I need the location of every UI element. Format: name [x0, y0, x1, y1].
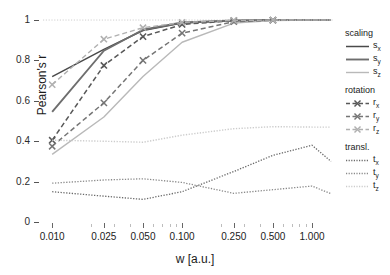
x-tick-mark: [143, 223, 144, 228]
marker-r_x: [101, 62, 107, 68]
legend-swatch-s_x: [345, 41, 370, 52]
legend-item-s_y[interactable]: sy: [345, 54, 390, 65]
legend-item-t_y[interactable]: ty: [345, 168, 390, 179]
legend-swatch-r_y: [345, 111, 370, 122]
y-tick-mark: [34, 101, 39, 102]
legend-item-t_z[interactable]: tz: [345, 181, 390, 192]
legend-swatch-t_z: [345, 181, 370, 192]
y-tick-label: 0: [0, 217, 30, 227]
marker-r_y: [140, 57, 146, 63]
x-minor-tick: [306, 224, 307, 227]
x-tick-mark: [104, 223, 105, 228]
x-axis-label: w [a.u.]: [0, 252, 390, 266]
y-tick-mark: [34, 222, 39, 223]
series-line-t_x: [52, 145, 331, 199]
legend-label-t_z: tz: [373, 181, 379, 193]
y-tick-label: 0.2: [0, 177, 30, 187]
x-tick-label: 0.100: [159, 231, 205, 242]
x-minor-tick: [283, 224, 284, 227]
y-tick-mark: [34, 60, 39, 61]
marker-r_z: [49, 82, 55, 88]
legend-swatch-s_y: [345, 54, 370, 65]
legend-group-title: scaling: [345, 28, 390, 38]
legend-label-t_x: tx: [373, 155, 379, 167]
legend-group-transl: transl.txtytz: [345, 142, 390, 192]
series-line-t_y: [52, 179, 331, 194]
legend-swatch-t_x: [345, 155, 370, 166]
legend-group-title: rotation: [345, 85, 390, 95]
x-tick-mark: [234, 223, 235, 228]
series-line-t_z: [52, 127, 331, 143]
plot-area: [43, 16, 333, 222]
x-minor-tick: [130, 224, 131, 227]
legend-label-r_z: rz: [373, 124, 379, 136]
y-tick-mark: [34, 182, 39, 183]
y-tick-mark: [34, 141, 39, 142]
x-minor-tick: [170, 224, 171, 227]
y-tick-label: 0.8: [0, 55, 30, 65]
y-tick-label: 0.4: [0, 136, 30, 146]
legend-swatch-s_z: [345, 67, 370, 78]
x-tick-label: 1.000: [289, 231, 335, 242]
legend-swatch-r_x: [345, 98, 370, 109]
x-minor-tick: [299, 224, 300, 227]
chart-root: Pearson's r 00.20.40.60.81 0.0100.0250.0…: [0, 0, 390, 275]
x-minor-tick: [153, 224, 154, 227]
series-line-s_x: [52, 20, 331, 77]
marker-r_x: [140, 34, 146, 40]
legend-label-s_x: sx: [373, 41, 381, 53]
x-tick-label: 0.010: [29, 231, 75, 242]
legend-swatch-t_y: [345, 168, 370, 179]
legend-label-r_y: ry: [373, 111, 379, 123]
marker-r_y: [49, 143, 55, 149]
legend-item-t_x[interactable]: tx: [345, 155, 390, 166]
x-minor-tick: [221, 224, 222, 227]
legend-group-title: transl.: [345, 142, 390, 152]
y-tick-label: 1: [0, 15, 30, 25]
chart-legend: scalingsxsyszrotationrxryrztransl.txtytz: [345, 28, 390, 199]
x-tick-mark: [273, 223, 274, 228]
x-minor-tick: [292, 224, 293, 227]
legend-label-t_y: ty: [373, 168, 379, 180]
legend-label-s_z: sz: [373, 67, 381, 79]
y-tick-mark: [34, 20, 39, 21]
legend-group-scaling: scalingsxsysz: [345, 28, 390, 78]
x-tick-mark: [312, 223, 313, 228]
x-tick-mark: [182, 223, 183, 228]
legend-item-s_x[interactable]: sx: [345, 41, 390, 52]
legend-swatch-r_z: [345, 124, 370, 135]
x-minor-tick: [91, 224, 92, 227]
legend-label-r_x: rx: [373, 98, 379, 110]
x-minor-tick: [260, 224, 261, 227]
legend-label-s_y: sy: [373, 54, 381, 66]
marker-r_z: [101, 36, 107, 42]
series-line-r_z: [52, 20, 331, 85]
x-minor-tick: [114, 224, 115, 227]
x-minor-tick: [162, 224, 163, 227]
x-minor-tick: [244, 224, 245, 227]
plot-svg: [43, 16, 333, 222]
legend-item-r_y[interactable]: ry: [345, 111, 390, 122]
legend-item-r_z[interactable]: rz: [345, 124, 390, 135]
y-tick-label: 0.6: [0, 96, 30, 106]
marker-r_y: [179, 30, 185, 36]
legend-item-r_x[interactable]: rx: [345, 98, 390, 109]
series-line-s_y: [52, 20, 331, 112]
marker-r_y: [101, 100, 107, 106]
legend-item-s_z[interactable]: sz: [345, 67, 390, 78]
x-tick-mark: [52, 223, 53, 228]
x-minor-tick: [176, 224, 177, 227]
legend-group-rotation: rotationrxryrz: [345, 85, 390, 135]
